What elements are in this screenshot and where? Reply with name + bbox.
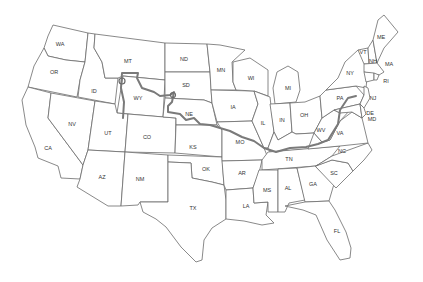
label-wi: WI: [248, 75, 255, 81]
label-ok: OK: [202, 166, 210, 172]
state-borders: [22, 15, 398, 262]
label-ga: GA: [309, 181, 317, 187]
label-in: IN: [279, 117, 285, 123]
label-mi: MI: [285, 85, 292, 91]
label-mo: MO: [236, 139, 246, 145]
label-sc: SC: [330, 170, 338, 176]
label-ut: UT: [104, 130, 112, 136]
label-tx: TX: [189, 205, 196, 211]
label-ny: NY: [346, 70, 354, 76]
label-ma: MA: [385, 61, 394, 67]
label-co: CO: [143, 134, 152, 140]
label-la: LA: [243, 203, 250, 209]
label-ca: CA: [44, 145, 52, 151]
label-nd: ND: [180, 56, 188, 62]
label-oh: OH: [300, 112, 308, 118]
label-al: AL: [285, 185, 292, 191]
label-nm: NM: [136, 176, 145, 182]
label-nc: NC: [338, 148, 346, 154]
label-md: MD: [368, 116, 377, 122]
label-ar: AR: [238, 170, 246, 176]
label-wa: WA: [56, 41, 65, 47]
label-wy: WY: [134, 95, 143, 101]
label-fl: FL: [334, 228, 340, 234]
state-ct: [364, 72, 374, 82]
label-or: OR: [50, 69, 58, 75]
label-id: ID: [91, 88, 97, 94]
label-nv: NV: [68, 121, 76, 127]
state-nm: [121, 152, 168, 206]
label-il: IL: [261, 120, 266, 126]
label-ms: MS: [263, 187, 272, 193]
label-nj: NJ: [370, 95, 377, 101]
label-tn: TN: [285, 156, 292, 162]
label-sd: SD: [182, 82, 190, 88]
label-va: VA: [337, 130, 344, 136]
state-ks: [175, 125, 222, 157]
label-mt: MT: [124, 58, 133, 64]
label-ri: RI: [383, 78, 389, 84]
label-nh: NH: [369, 58, 377, 64]
label-ks: KS: [189, 144, 197, 150]
label-ne: NE: [185, 111, 193, 117]
us-map: WA OR CA NV ID MT WY UT CO AZ NM ND SD N…: [0, 0, 423, 282]
label-vt: VT: [359, 49, 367, 55]
state-fl: [285, 201, 351, 260]
label-me: ME: [377, 34, 386, 40]
label-ia: IA: [230, 104, 236, 110]
label-mn: MN: [217, 67, 226, 73]
label-pa: PA: [337, 95, 344, 101]
label-az: AZ: [98, 174, 106, 180]
label-wv: WV: [317, 127, 326, 133]
